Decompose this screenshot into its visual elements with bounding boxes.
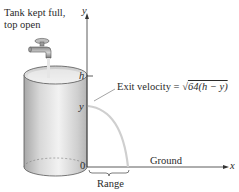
y-mark-label: y xyxy=(79,101,84,113)
faucet-icon xyxy=(29,38,52,58)
exit-velocity-radicand: 64(h − y) xyxy=(188,81,228,92)
tank xyxy=(24,66,87,176)
exit-velocity-label: Exit velocity = √64(h − y) xyxy=(117,81,228,93)
exit-velocity-leader xyxy=(94,89,115,101)
water-trajectory xyxy=(88,106,128,167)
exit-velocity-prefix: Exit velocity = xyxy=(117,81,182,92)
water-stream xyxy=(47,58,50,78)
y-axis-label: y xyxy=(82,5,87,17)
range-brace xyxy=(89,170,129,176)
h-mark-label: h xyxy=(79,70,84,82)
ground-label: Ground xyxy=(150,155,182,167)
x-axis-label: x xyxy=(230,160,235,172)
tank-note: Tank kept full, top open xyxy=(4,7,65,31)
tank-note-line1: Tank kept full, xyxy=(4,7,65,19)
tank-note-line2: top open xyxy=(4,19,65,31)
range-label: Range xyxy=(97,178,124,190)
origin-label: 0 xyxy=(80,160,85,172)
